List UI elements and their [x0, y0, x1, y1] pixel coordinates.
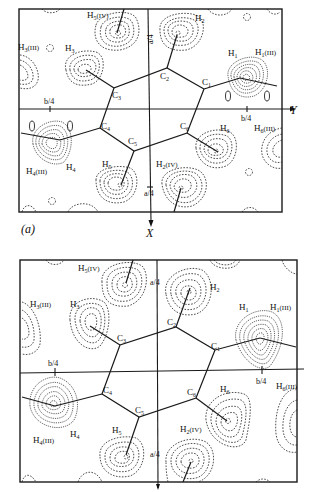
contour-bottom-edge-2 — [68, 204, 98, 212]
contour-h5 — [96, 167, 137, 203]
label-h2iv-b: H2(IV) — [180, 424, 202, 435]
label-h6-b: H6 — [220, 384, 230, 395]
label-h6iii: H6(III) — [254, 123, 276, 134]
contour-h2iv-b — [166, 439, 214, 482]
contour-negative-1 — [226, 91, 231, 101]
panel-a: Y X b/4 b/4 a/4 a/4 — [18, 9, 298, 240]
bond-c6-h6-b — [196, 398, 227, 421]
contour-small-4 — [49, 198, 56, 205]
bond-c4-h4-b — [55, 394, 102, 406]
contour-top-edge-b3 — [214, 260, 236, 265]
tick-label-a4-bottom: a/4 — [144, 189, 154, 198]
contour-h4-dense — [33, 121, 72, 164]
electron-density-figure: Y X b/4 b/4 a/4 a/4 — [0, 0, 318, 492]
contour-negative-2 — [265, 91, 270, 101]
bond-h1-h1iii — [240, 78, 277, 86]
contour-h2iv — [162, 168, 206, 207]
label-h4: H4 — [66, 162, 76, 173]
contour-h5-b — [100, 437, 144, 477]
label-h2-b: H2 — [210, 282, 220, 293]
tick-label-b4-right-b: b/4 — [256, 377, 266, 386]
label-h3-b: H3 — [70, 299, 80, 310]
panel-b: b/4 b/4 a/4 a/4 — [20, 260, 304, 490]
label-h5-b: H5 — [112, 425, 122, 436]
contour-h6iii-b — [276, 388, 297, 452]
tick-label-a4-top: a/4 — [146, 34, 155, 44]
contour-top-edge-2 — [208, 9, 232, 15]
label-h4iii: H4(III) — [26, 166, 48, 177]
label-h6: H6 — [220, 123, 230, 134]
y-axis-label: Y — [290, 103, 298, 117]
label-h1: H1 — [228, 48, 238, 59]
label-h3: H3 — [65, 43, 75, 54]
bond-c5-h5-b — [126, 417, 139, 455]
bond-c3-h3-b — [90, 326, 120, 345]
bond-c2-h2 — [167, 35, 177, 68]
contour-h6 — [196, 130, 237, 168]
label-c2: C2 — [160, 71, 169, 82]
label-c1: C1 — [202, 77, 211, 88]
label-h5iv-b: H5(IV) — [78, 263, 100, 274]
x-axis-label: X — [145, 226, 154, 240]
label-h3iii-b: H3(III) — [30, 299, 52, 310]
label-c6: C6 — [180, 121, 189, 132]
label-c4-b: C4 — [103, 385, 112, 396]
contour-negative-3 — [30, 121, 35, 131]
contour-h6iii — [262, 128, 282, 168]
bond-c4-h4 — [60, 128, 100, 140]
contour-h3 — [65, 51, 103, 85]
tick-label-b4-left: b/4 — [44, 97, 54, 106]
bond-c3-h3 — [86, 70, 114, 88]
label-h4iii-b: H4(III) — [33, 435, 55, 446]
bond-h2iv-b — [183, 462, 191, 482]
label-c3: C3 — [112, 90, 121, 101]
label-h2iv: H2(IV) — [156, 159, 178, 170]
label-h2: H2 — [195, 13, 205, 24]
label-h3iii: H3(III) — [18, 42, 40, 53]
tick-label-a4-bottom-b: a/4 — [150, 450, 160, 459]
label-c5: C5 — [128, 136, 137, 147]
label-h1iii-b: H1(III) — [270, 302, 292, 313]
vertical-axis-arrow-icon — [156, 484, 160, 490]
contour-h3iii — [20, 55, 38, 89]
bond-h4-h4iii — [21, 133, 60, 140]
label-c1-b: C1 — [211, 341, 220, 352]
contour-small-2 — [244, 14, 251, 21]
contour-bottom-edge-b1 — [22, 475, 36, 482]
label-c3-b: C3 — [117, 333, 126, 344]
contour-small-3 — [246, 169, 253, 176]
contour-bottom-edge-b2 — [78, 472, 102, 482]
panel-a-label: (a) — [21, 222, 35, 236]
label-h1-b: H1 — [239, 302, 249, 313]
contour-negative-4 — [68, 121, 73, 131]
bond-h2iv — [174, 188, 181, 212]
contour-bottom-edge-1 — [22, 206, 36, 212]
contour-h1-dense-b — [236, 311, 283, 369]
tick-label-a4-top-b: a/4 — [150, 278, 160, 287]
label-c2-b: C2 — [167, 317, 176, 328]
tick-label-b4-right: b/4 — [241, 114, 251, 123]
contour-top-edge-3 — [267, 9, 280, 14]
label-h6iii-b: H6(III) — [276, 381, 298, 392]
tick-label-b4-left-b: b/4 — [48, 359, 58, 368]
label-c5-b: C5 — [135, 405, 144, 416]
label-c6-b: C6 — [187, 387, 196, 398]
label-h4-b: H4 — [70, 429, 80, 440]
contour-h5iv-b — [102, 263, 146, 307]
label-h5: H5 — [102, 159, 112, 170]
contour-small-1 — [47, 45, 54, 52]
contour-h6-b — [206, 392, 250, 446]
label-h1iii: H1(III) — [255, 47, 277, 58]
bond-h5iv-b — [126, 260, 133, 283]
contour-top-edge-b4 — [282, 260, 297, 274]
horizontal-axis — [20, 369, 304, 373]
contour-h1-dense — [228, 57, 268, 97]
label-h5iv: H5(IV) — [87, 10, 109, 21]
bond-c6-h6 — [187, 133, 218, 152]
label-c4: C4 — [101, 121, 110, 132]
